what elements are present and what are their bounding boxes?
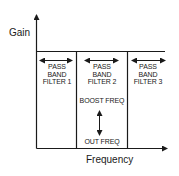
cut-freq-label: OUT FREQ (77, 138, 127, 146)
band-2-label: PASS BAND FILTER 2 (78, 63, 126, 86)
y-axis-label: Gain (9, 27, 30, 38)
band-3-label: PASS BAND FILTER 3 (129, 63, 167, 86)
x-axis-label: Frequency (86, 154, 133, 165)
boost-freq-label: BOOST FREQ (77, 97, 127, 105)
band-1-label: PASS BAND FILTER 1 (38, 63, 76, 86)
